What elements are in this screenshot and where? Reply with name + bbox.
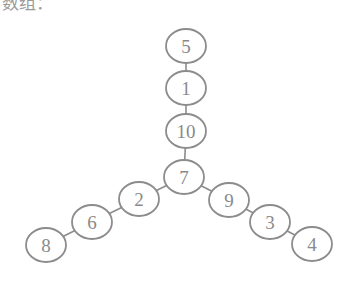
tree-nodes: 51107268934 (26, 29, 332, 262)
node-label: 4 (307, 234, 317, 255)
node-label: 7 (179, 167, 189, 188)
node-label: 1 (181, 78, 191, 99)
tree-node-9: 9 (209, 183, 249, 217)
node-label: 3 (265, 212, 275, 233)
tree-diagram: 51107268934 (0, 0, 339, 282)
tree-node-7: 7 (164, 160, 204, 194)
node-label: 6 (87, 212, 97, 233)
tree-node-2: 2 (119, 182, 159, 216)
tree-node-4: 4 (292, 227, 332, 261)
node-label: 2 (134, 189, 144, 210)
node-label: 8 (41, 235, 51, 256)
tree-node-5: 5 (166, 29, 206, 63)
node-label: 5 (181, 36, 191, 57)
node-label: 10 (177, 121, 196, 142)
tree-node-8: 8 (26, 228, 66, 262)
tree-node-6: 6 (72, 205, 112, 239)
node-label: 9 (224, 190, 234, 211)
tree-node-10: 10 (166, 114, 206, 148)
tree-node-3: 3 (250, 205, 290, 239)
tree-node-1: 1 (166, 71, 206, 105)
